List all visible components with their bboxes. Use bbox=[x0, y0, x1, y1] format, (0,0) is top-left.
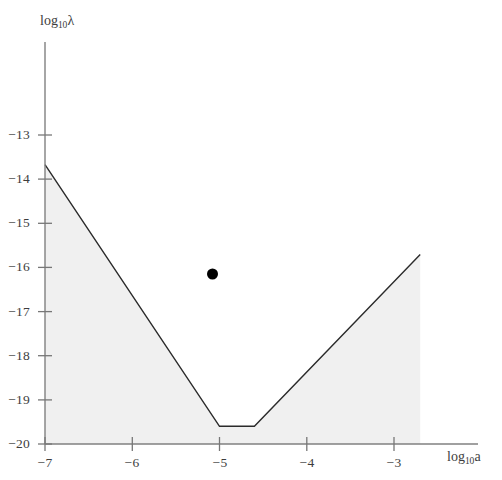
x-tick-label: −7 bbox=[38, 456, 53, 470]
y-tick-label: −16 bbox=[0, 260, 30, 274]
y-tick-label: −20 bbox=[0, 437, 30, 451]
y-tick-label: −14 bbox=[0, 172, 30, 186]
y-tick-label: −18 bbox=[0, 349, 30, 363]
y-tick-label: −19 bbox=[0, 393, 30, 407]
y-axis-title-prefix: log bbox=[40, 13, 58, 28]
x-tick-label: −6 bbox=[125, 456, 140, 470]
x-tick-label: −5 bbox=[213, 456, 228, 470]
x-axis-title-prefix: log bbox=[447, 449, 465, 464]
x-tick-label: −3 bbox=[387, 456, 402, 470]
y-tick-label: −15 bbox=[0, 216, 30, 230]
data-point-marker bbox=[207, 269, 218, 280]
plot-figure: −13 −14 −15 −16 −17 −18 −19 −20 −7 −6 −5… bbox=[0, 0, 502, 480]
y-axis-title: log10λ bbox=[40, 14, 74, 28]
y-tick-label: −17 bbox=[0, 305, 30, 319]
y-tick-label: −13 bbox=[0, 128, 30, 142]
y-axis-title-variable: λ bbox=[68, 13, 75, 28]
shaded-region bbox=[45, 165, 420, 444]
x-tick-label: −4 bbox=[300, 456, 315, 470]
x-axis-title: log10a bbox=[447, 450, 481, 464]
plot-canvas bbox=[0, 0, 502, 480]
x-axis-title-variable: a bbox=[475, 449, 481, 464]
y-axis-title-subscript: 10 bbox=[58, 20, 67, 30]
x-axis-title-subscript: 10 bbox=[465, 456, 474, 466]
